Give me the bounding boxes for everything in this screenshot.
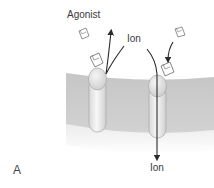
ion-label-top: Ion <box>127 34 141 44</box>
ion-label-bottom: Ion <box>150 163 164 173</box>
cell-membrane <box>66 73 214 133</box>
agonist-free-left <box>79 28 89 39</box>
ion-channel-diagram <box>0 0 214 188</box>
ion-path-left <box>106 32 124 74</box>
ion-channel-left <box>89 53 107 132</box>
panel-label: A <box>13 163 21 177</box>
agonist-label: Agonist <box>67 10 100 20</box>
agonist-arrow <box>168 42 173 60</box>
